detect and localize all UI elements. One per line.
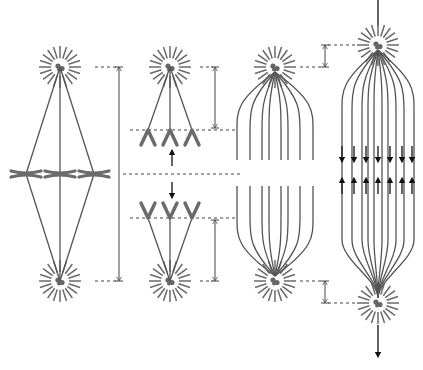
aster-ray bbox=[164, 47, 168, 58]
aster-ray bbox=[284, 61, 295, 65]
aster-ray bbox=[173, 290, 177, 301]
aster-ray bbox=[387, 39, 398, 43]
centriole-icon bbox=[272, 282, 276, 286]
chromatid-icon bbox=[185, 203, 199, 218]
aster-ray bbox=[387, 297, 398, 301]
interpolar-microtubule bbox=[378, 50, 388, 298]
aster-ray bbox=[284, 70, 295, 74]
aster-ray bbox=[278, 290, 282, 301]
chromatid-icon bbox=[141, 130, 155, 145]
chromatid-icon bbox=[185, 130, 199, 145]
aster-ray bbox=[269, 47, 273, 58]
aster-ray bbox=[40, 61, 51, 65]
kinetochore-microtubule bbox=[170, 218, 192, 281]
aster-ray bbox=[179, 61, 190, 65]
aster-ray bbox=[255, 284, 266, 288]
aster-ray bbox=[150, 275, 161, 279]
centriole-icon bbox=[375, 304, 379, 308]
centriole-icon bbox=[272, 68, 276, 72]
aster-ray bbox=[179, 275, 190, 279]
centriole-icon bbox=[375, 46, 379, 50]
mitosis-diagram bbox=[0, 0, 423, 370]
kinetochore-microtubule bbox=[60, 174, 94, 281]
aster-ray bbox=[278, 47, 282, 58]
aster-ray bbox=[255, 70, 266, 74]
aster-ray bbox=[40, 70, 51, 74]
kinetochore-microtubule bbox=[26, 67, 60, 174]
chromatid-icon bbox=[141, 203, 155, 218]
aster-ray bbox=[173, 47, 177, 58]
kinetochore-microtubule bbox=[148, 218, 170, 281]
aster-ray bbox=[150, 61, 161, 65]
aster-ray bbox=[69, 275, 80, 279]
centrosome-aster bbox=[357, 24, 399, 66]
aster-ray bbox=[40, 275, 51, 279]
aster-ray bbox=[164, 290, 168, 301]
aster-ray bbox=[269, 290, 273, 301]
kinetochore-microtubule bbox=[26, 174, 60, 281]
chromatid-icon bbox=[163, 130, 177, 145]
aster-ray bbox=[179, 70, 190, 74]
interpolar-microtubule bbox=[374, 50, 378, 298]
aster-ray bbox=[387, 48, 398, 52]
centriole-icon bbox=[167, 282, 171, 286]
aster-ray bbox=[150, 70, 161, 74]
aster-ray bbox=[69, 61, 80, 65]
chromosome-icon bbox=[11, 171, 41, 173]
interpolar-microtubule bbox=[378, 50, 382, 298]
aster-ray bbox=[63, 290, 67, 301]
aster-ray bbox=[179, 284, 190, 288]
kinetochore-microtubule bbox=[60, 67, 94, 174]
aster-ray bbox=[381, 312, 385, 323]
aster-ray bbox=[150, 284, 161, 288]
centrosome-aster bbox=[254, 260, 296, 302]
diagram-svg bbox=[0, 0, 423, 370]
centrosome-aster bbox=[254, 46, 296, 88]
aster-ray bbox=[63, 47, 67, 58]
centriole-icon bbox=[57, 282, 61, 286]
kinetochore-microtubule bbox=[170, 67, 192, 130]
aster-ray bbox=[358, 297, 369, 301]
aster-ray bbox=[381, 25, 385, 36]
aster-ray bbox=[358, 306, 369, 310]
aster-ray bbox=[372, 312, 376, 323]
aster-ray bbox=[54, 47, 58, 58]
chromatid-icon bbox=[163, 203, 177, 218]
interpolar-microtubule bbox=[368, 50, 378, 298]
chromosome-icon bbox=[79, 171, 109, 173]
aster-ray bbox=[40, 284, 51, 288]
aster-ray bbox=[372, 25, 376, 36]
aster-ray bbox=[284, 275, 295, 279]
aster-ray bbox=[358, 48, 369, 52]
aster-ray bbox=[358, 39, 369, 43]
aster-ray bbox=[284, 284, 295, 288]
kinetochore-microtubule bbox=[148, 67, 170, 130]
aster-ray bbox=[69, 70, 80, 74]
chromosome-icon bbox=[11, 175, 41, 177]
aster-ray bbox=[387, 306, 398, 310]
chromosome-icon bbox=[79, 175, 109, 177]
aster-ray bbox=[69, 284, 80, 288]
aster-ray bbox=[54, 290, 58, 301]
aster-ray bbox=[255, 61, 266, 65]
aster-ray bbox=[255, 275, 266, 279]
